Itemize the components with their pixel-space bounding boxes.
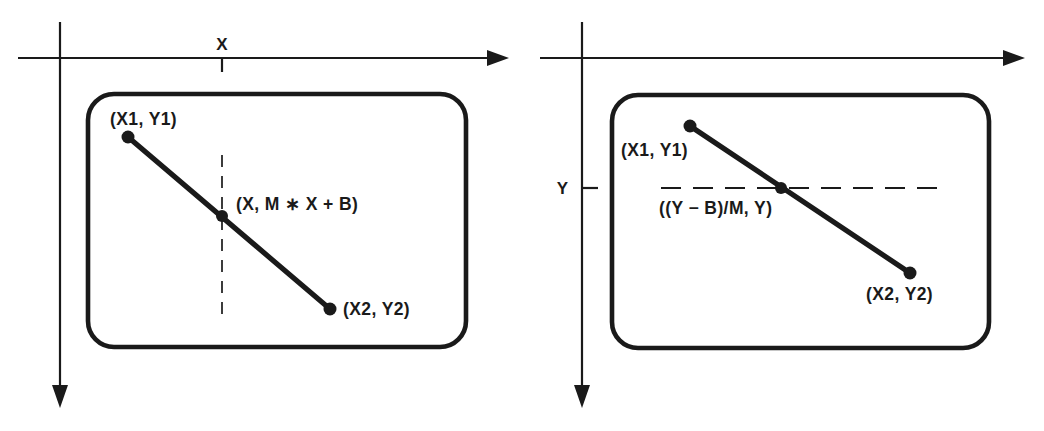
right-axis-label-y: Y [557,179,569,198]
right-point2-dot [904,267,917,280]
right-label-point2: (X2, Y2) [866,284,933,304]
right-intersection-dot [775,182,787,194]
down-arrow-icon [52,385,68,408]
right-panel: Y (X1, Y1) ((Y − B)/M, Y) (X2, Y2) [540,22,1025,408]
left-horizontal-axis [18,50,509,66]
left-label-intersection: (X, M ∗ X + B) [236,194,358,214]
right-label-point1: (X1, Y1) [621,140,688,160]
right-arrow-icon [487,50,509,66]
left-label-point1: (X1, Y1) [110,109,177,129]
left-vertical-axis [52,22,68,408]
right-vertical-axis [574,22,590,408]
right-arrow-icon [1003,50,1025,66]
left-axis-label-x: X [216,35,228,54]
left-point2-dot [324,303,337,316]
left-intersection-dot [216,210,228,222]
left-label-point2: (X2, Y2) [343,299,410,319]
right-point1-dot [684,120,697,133]
left-line-segment [128,137,330,309]
left-point1-dot [122,131,135,144]
down-arrow-icon [574,385,590,408]
left-panel: X (X1, Y1) (X, M ∗ X + B) (X2, Y2) [18,22,509,408]
right-viewport-box [612,95,989,348]
diagram-canvas: X (X1, Y1) (X, M ∗ X + B) (X2, Y2) [0,0,1044,431]
line-coordinate-diagram: X (X1, Y1) (X, M ∗ X + B) (X2, Y2) [0,0,1044,431]
right-horizontal-axis [540,50,1025,66]
right-label-intersection: ((Y − B)/M, Y) [659,198,772,218]
